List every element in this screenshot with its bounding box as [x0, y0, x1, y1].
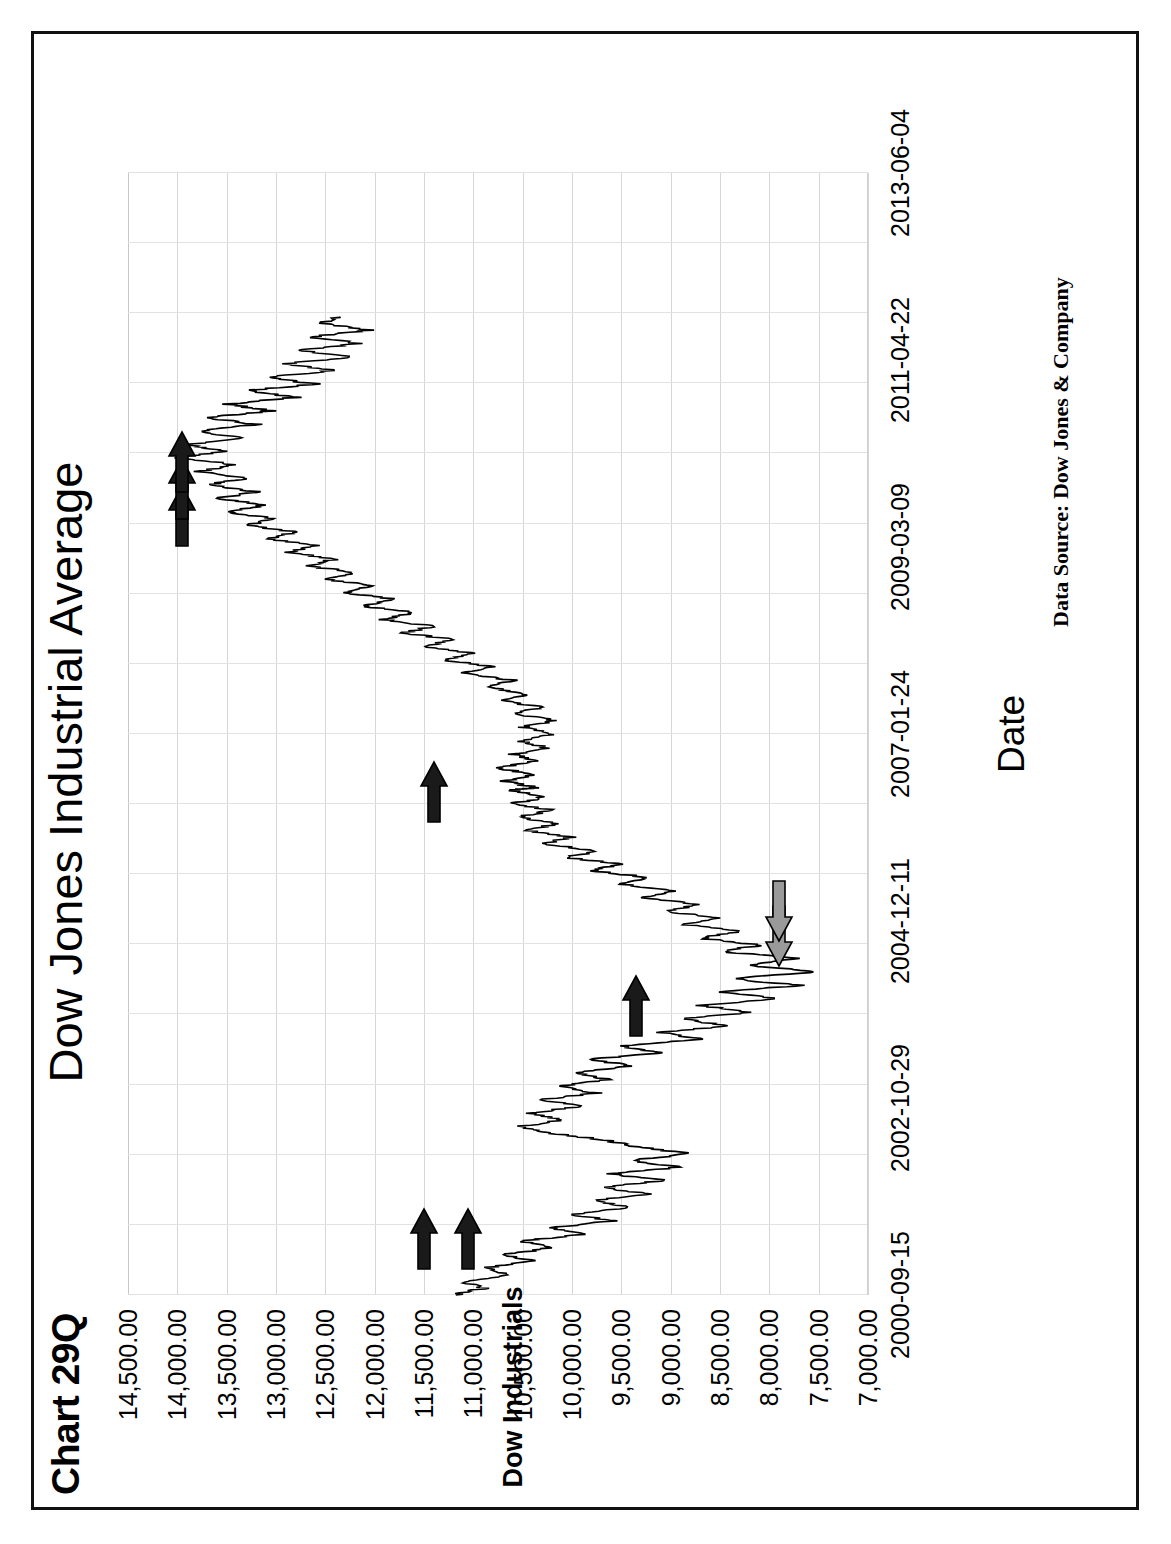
y-tick-label: 8,500.00	[705, 1309, 734, 1406]
annotation-arrow-black-7	[167, 430, 197, 494]
y-tick-label: 9,000.00	[656, 1309, 685, 1406]
y-tick-label: 13,000.00	[261, 1309, 290, 1420]
chart-title: Dow Jones Industrial Average	[38, 37, 93, 1507]
x-tick-label: 2011-04-22	[886, 297, 915, 423]
y-tick-label: 7,000.00	[853, 1309, 882, 1406]
y-tick-label: 7,500.00	[804, 1309, 833, 1406]
plot-area	[128, 173, 868, 1295]
y-tick-label: 12,500.00	[310, 1309, 339, 1420]
x-tick-label: 2009-03-09	[886, 483, 915, 611]
x-tick-label: 2013-06-04	[886, 109, 915, 237]
annotation-arrow-black-1	[409, 1207, 439, 1271]
series-line-dow-industrials	[128, 173, 868, 1295]
y-tick-label: 11,500.00	[409, 1309, 438, 1418]
annotation-arrow-black-2	[453, 1207, 483, 1271]
x-tick-label: 2004-12-11	[886, 858, 915, 984]
y-tick-label: 9,500.00	[606, 1309, 635, 1406]
rotated-figure-canvas: Chart 29Q Dow Jones Industrial Average 1…	[36, 37, 1136, 1507]
y-tick-label: 11,000.00	[458, 1309, 487, 1418]
annotation-arrow-gray-2	[764, 879, 794, 943]
y-tick-label: 12,000.00	[360, 1309, 389, 1420]
x-tick-label: 2000-09-15	[886, 1231, 915, 1359]
data-source-note: Data Source: Dow Jones & Company	[1048, 277, 1074, 627]
y-tick-label: 14,500.00	[113, 1309, 142, 1420]
y-axis-title: Dow Industrials	[498, 1267, 529, 1507]
x-tick-label: 2007-01-24	[886, 670, 915, 798]
y-tick-label: 8,000.00	[754, 1309, 783, 1406]
y-tick-label: 14,000.00	[162, 1309, 191, 1420]
annotation-arrow-black-3	[621, 974, 651, 1038]
figure-page: Chart 29Q Dow Jones Industrial Average 1…	[0, 0, 1171, 1544]
y-tick-label: 10,000.00	[557, 1309, 586, 1420]
annotation-arrow-black-4	[418, 760, 448, 824]
y-tick-label: 13,500.00	[212, 1309, 241, 1420]
x-axis-title: Date	[991, 173, 1033, 1295]
x-tick-label: 2002-10-29	[886, 1044, 915, 1172]
